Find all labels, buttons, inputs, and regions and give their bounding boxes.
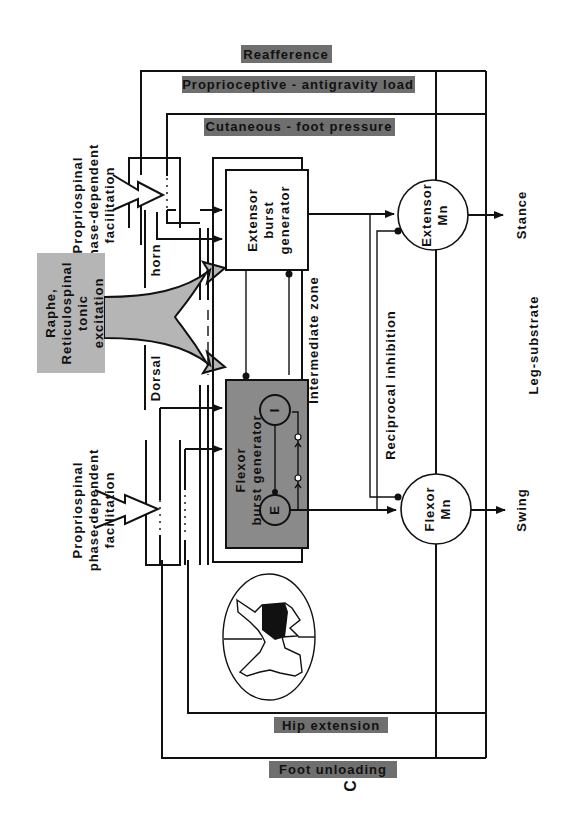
descending-excitation: Raphe, Reticulospinal tonic excitation: [37, 253, 225, 373]
svg-text:Flexor: Flexor: [422, 486, 437, 531]
propriospinal-top-arrow-icon: [113, 175, 163, 210]
horn-label: horn: [148, 244, 163, 277]
locomotor-cpg-diagram: Reafference Proprioceptive - antigravity…: [0, 0, 578, 831]
propriospinal-bottom-label: Propriospinal phase-dependent facilitati…: [70, 449, 117, 572]
svg-text:facilitation: facilitation: [102, 166, 117, 243]
hip-extension-label: Hip extension: [282, 718, 380, 733]
svg-text:facilitation: facilitation: [102, 471, 117, 548]
proprioceptive-band: Proprioceptive - antigravity load: [182, 76, 415, 93]
leg-substrate-label: Leg-substrate: [526, 296, 541, 395]
excitatory-label: E: [267, 505, 282, 515]
hip-extension-band: Hip extension: [274, 717, 388, 733]
flexor-burst-generator: Flexor burst generator I E: [226, 380, 308, 548]
extensor-burst-generator: Extensor burst generator: [226, 170, 308, 270]
foot-unloading-label: Foot unloading: [279, 762, 387, 777]
svg-text:burst: burst: [261, 201, 276, 239]
spinal-cord-cross-section-icon: [223, 574, 315, 700]
extensor-motoneuron: Extensor Mn: [398, 180, 468, 250]
swing-label: Swing: [514, 488, 529, 531]
descending-label-1: Raphe,: [43, 288, 58, 337]
svg-text:Mn: Mn: [438, 499, 453, 520]
reciprocal-inhibition-label: Reciprocal inhibition: [383, 310, 398, 460]
proprioceptive-label: Proprioceptive - antigravity load: [182, 77, 414, 92]
cutaneous-band: Cutaneous - foot pressure: [204, 118, 395, 136]
flexor-motoneuron: Flexor Mn: [401, 474, 471, 544]
panel-letter: C: [342, 780, 359, 792]
svg-text:Mn: Mn: [435, 205, 450, 226]
dorsal-label: Dorsal: [148, 355, 163, 401]
inhibitory-label: I: [267, 408, 282, 413]
svg-text:phase-dependent: phase-dependent: [86, 144, 101, 267]
reafference-label: Reafference: [243, 47, 328, 62]
descending-label-4: excitation: [91, 278, 106, 349]
dorsal-horn-bottom-bracket: [146, 440, 180, 565]
svg-text:phase-dependent: phase-dependent: [86, 449, 101, 572]
cutaneous-label: Cutaneous - foot pressure: [206, 119, 393, 134]
descending-label-2: Reticulospinal: [59, 262, 74, 365]
svg-text:generator: generator: [277, 186, 292, 255]
reafference-band: Reafference: [241, 45, 332, 63]
descending-label-3: tonic: [75, 295, 90, 331]
foot-unloading-band: Foot unloading: [269, 761, 397, 778]
svg-text:Propriospinal: Propriospinal: [70, 157, 85, 254]
svg-text:Extensor: Extensor: [419, 183, 434, 247]
stance-label: Stance: [514, 191, 529, 240]
svg-text:Propriospinal: Propriospinal: [70, 462, 85, 559]
svg-text:Flexor: Flexor: [233, 447, 248, 492]
svg-text:Extensor: Extensor: [245, 188, 260, 252]
propriospinal-top-label: Propriospinal phase-dependent facilitati…: [70, 144, 117, 267]
